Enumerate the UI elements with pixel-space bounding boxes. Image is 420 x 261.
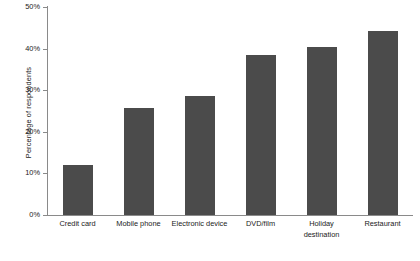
bar-series <box>47 0 413 215</box>
y-axis-tick-mark <box>43 215 47 216</box>
bar-slot <box>169 0 230 215</box>
bar <box>124 108 154 215</box>
bar-slot <box>352 0 413 215</box>
x-axis-tick-label: Electronic device <box>169 219 230 230</box>
x-axis-line <box>47 215 413 216</box>
bar <box>246 55 276 215</box>
bar-chart: Percentage of respondents 0%10%20%30%40%… <box>0 0 420 261</box>
bar-slot <box>291 0 352 215</box>
bar-slot <box>230 0 291 215</box>
y-axis-tick-label: 30% <box>25 85 40 94</box>
bar-slot <box>47 0 108 215</box>
bar-slot <box>108 0 169 215</box>
y-axis-tick-label: 0% <box>29 210 40 219</box>
y-axis-tick-label: 40% <box>25 44 40 53</box>
x-axis-tick-label: Mobile phone <box>108 219 169 230</box>
x-axis-tick-label: Credit card <box>47 219 108 230</box>
x-axis-tick-label: Restaurant <box>352 219 413 230</box>
y-axis-tick-label: 20% <box>25 127 40 136</box>
bar <box>368 31 398 215</box>
x-axis-tick-labels: Credit cardMobile phoneElectronic device… <box>47 219 413 259</box>
y-axis-tick-label: 50% <box>25 2 40 11</box>
x-axis-tick-label: DVD/film <box>230 219 291 230</box>
bar <box>185 96 215 215</box>
x-axis-tick-label: Holiday destination <box>291 219 352 240</box>
y-axis-tick-label: 10% <box>25 168 40 177</box>
bar <box>63 165 93 215</box>
bar <box>307 47 337 215</box>
